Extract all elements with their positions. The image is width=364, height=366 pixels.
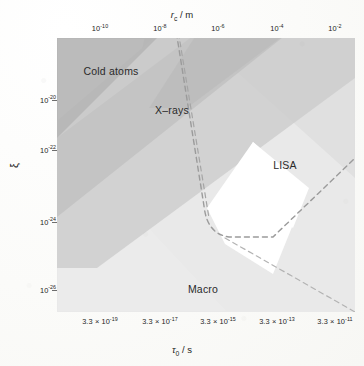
top-tick-2: 10-8 bbox=[153, 24, 166, 33]
region-label-cold-atoms: Cold atoms bbox=[83, 65, 138, 77]
bottom-tick-1: 3.3 × 10-19 bbox=[82, 317, 118, 326]
top-tick-1: 10-10 bbox=[92, 24, 108, 33]
top-axis-subscript: c bbox=[174, 15, 177, 22]
y-axis-title: ξ bbox=[8, 163, 20, 168]
top-axis-unit: / m bbox=[180, 9, 193, 20]
plot-area: Cold atoms X–rays LISA Macro bbox=[57, 38, 355, 312]
bottom-tick-4: 3.3 × 10-13 bbox=[259, 317, 295, 326]
top-tick-3: 10-6 bbox=[211, 24, 224, 33]
region-label-lisa: LISA bbox=[273, 159, 297, 171]
bottom-tick-3: 3.3 × 10-15 bbox=[200, 317, 236, 326]
exclusion-regions-svg bbox=[57, 38, 355, 312]
bottom-tick-5: 3.3 × 10-11 bbox=[317, 317, 352, 326]
region-label-macro: Macro bbox=[188, 283, 218, 295]
bottom-axis-unit: / s bbox=[182, 344, 192, 355]
top-tick-5: 10-2 bbox=[328, 24, 341, 33]
bottom-tick-2: 3.3 × 10-17 bbox=[142, 317, 178, 326]
top-axis-title: rc / m bbox=[0, 9, 364, 20]
bottom-axis-subscript: 0 bbox=[176, 350, 180, 357]
bottom-axis-title: τ0 / s bbox=[0, 344, 364, 355]
region-label-x-rays: X–rays bbox=[155, 104, 189, 116]
top-tick-4: 10-4 bbox=[270, 24, 283, 33]
figure-page: rc / m 10-10 10-8 10-6 10-4 10-2 ξ 10-20… bbox=[0, 0, 364, 366]
